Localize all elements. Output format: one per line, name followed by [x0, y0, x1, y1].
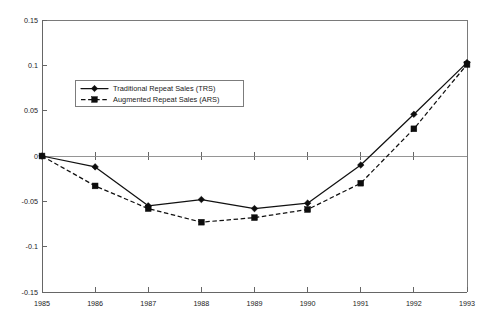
y-tick-label: 0	[34, 152, 38, 161]
x-tick-label: 1990	[300, 299, 316, 308]
data-point-marker	[252, 215, 258, 221]
y-tick-label: 0.15	[24, 16, 38, 25]
y-tick-label: 0.05	[24, 106, 38, 115]
x-tick-label: 1986	[87, 299, 103, 308]
data-point-marker	[92, 183, 98, 189]
y-tick-label: 0.1	[28, 61, 38, 70]
legend-label-trs: Traditional Repeat Sales (TRS)	[113, 84, 215, 93]
x-tick-label: 1991	[353, 299, 369, 308]
x-tick-label: 1992	[406, 299, 422, 308]
chart-legend: Traditional Repeat Sales (TRS) Augmented…	[76, 81, 244, 107]
y-tick-label: -0.15	[22, 288, 38, 297]
data-point-marker	[411, 126, 417, 132]
line-chart: 0.150.10.050-0.05-0.1-0.15 1985198619871…	[0, 0, 492, 321]
data-point-marker	[145, 206, 151, 212]
data-point-marker	[358, 180, 364, 186]
legend-label-ars: Augmented Repeat Sales (ARS)	[113, 95, 219, 104]
data-point-marker	[39, 153, 45, 159]
chart-container: 0.150.10.050-0.05-0.1-0.15 1985198619871…	[0, 0, 492, 321]
legend-marker-square	[92, 97, 98, 103]
data-point-marker	[198, 196, 205, 203]
y-tick-label: -0.05	[22, 197, 38, 206]
y-tick-label: -0.1	[26, 242, 38, 251]
data-point-marker	[251, 205, 258, 212]
data-point-marker	[464, 62, 470, 68]
data-point-marker	[305, 207, 311, 213]
x-tick-label: 1989	[247, 299, 263, 308]
x-tick-label: 1985	[34, 299, 50, 308]
data-point-marker	[198, 219, 204, 225]
x-tick-label: 1987	[140, 299, 156, 308]
x-axis-ticks: 198519861987198819891990199119921993	[34, 152, 475, 308]
x-tick-label: 1988	[193, 299, 209, 308]
x-tick-label: 1993	[459, 299, 475, 308]
